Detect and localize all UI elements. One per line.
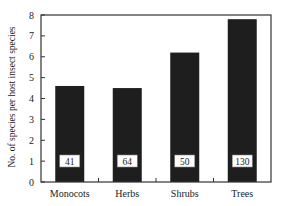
bar-chart: 012345678 416450130 MonocotsHerbsShrubsT… — [0, 0, 287, 206]
y-tick-label: 2 — [29, 135, 34, 146]
y-tick-label: 8 — [29, 10, 34, 21]
bar-count-label: 50 — [180, 157, 190, 167]
y-tick-label: 7 — [29, 30, 34, 41]
bar-count-label: 130 — [235, 157, 250, 167]
y-axis-label: No. of species per host insect species — [7, 22, 21, 172]
bars: 416450130 — [55, 19, 257, 182]
y-tick-label: 5 — [29, 72, 34, 83]
bar-herbs — [113, 88, 142, 182]
y-axis-ticks: 012345678 — [29, 10, 45, 188]
bar-monocots — [55, 86, 84, 182]
bar-count-label: 41 — [65, 157, 75, 167]
x-tick-label: Monocots — [50, 188, 90, 199]
x-tick-label: Shrubs — [171, 188, 199, 199]
y-tick-label: 1 — [29, 156, 34, 167]
x-tick-label: Herbs — [115, 188, 139, 199]
x-tick-label: Trees — [231, 188, 253, 199]
bar-count-label: 64 — [123, 157, 133, 167]
y-tick-label: 0 — [29, 177, 34, 188]
y-tick-label: 6 — [29, 51, 34, 62]
y-tick-label: 4 — [29, 93, 34, 104]
y-tick-label: 3 — [29, 114, 34, 125]
chart-canvas: 012345678 416450130 MonocotsHerbsShrubsT… — [0, 0, 287, 206]
